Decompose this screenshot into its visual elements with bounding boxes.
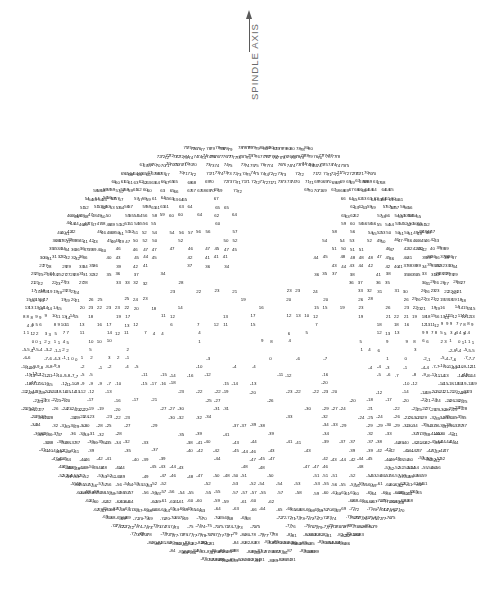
spindle-axis-annotation: SPINDLE AXIS xyxy=(232,4,272,116)
printer-plot-canvas xyxy=(0,116,501,595)
spindle-axis-contour-figure: SPINDLE AXIS xyxy=(0,0,501,595)
numeric-contour-plot xyxy=(0,116,501,595)
spindle-axis-label: SPINDLE AXIS xyxy=(249,14,260,110)
